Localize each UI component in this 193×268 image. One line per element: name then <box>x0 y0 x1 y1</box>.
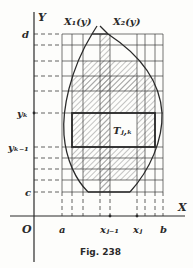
y-tick-c: c <box>25 187 31 198</box>
y-tick-yk: yₖ <box>16 108 28 119</box>
double-integral-diagram: Y X O X₁(y) X₂(y) d yₖ yₖ₋₁ c a xⱼ₋₁ xⱼ … <box>0 0 193 268</box>
y-axis-label: Y <box>38 11 47 24</box>
origin-label: O <box>22 223 32 236</box>
cell-label: Tⱼ,ₖ <box>113 125 132 137</box>
y-tick-yk-1: yₖ₋₁ <box>7 142 29 153</box>
x-tick-a: a <box>59 224 65 235</box>
x-tick-xj-1: xⱼ₋₁ <box>99 224 119 235</box>
y-guides <box>34 34 62 192</box>
x-tick-xj: xⱼ <box>132 224 143 235</box>
y-tick-d: d <box>22 29 29 40</box>
curve-x2-label: X₂(y) <box>112 16 141 27</box>
figure-caption: Fig. 238 <box>80 247 121 257</box>
curve-x2-top <box>100 26 108 34</box>
x-guides <box>62 192 163 216</box>
tick-xj-1 <box>109 215 112 218</box>
x-tick-b: b <box>160 224 167 235</box>
x-axis-label: X <box>177 201 187 214</box>
curve-x1-label: X₁(y) <box>63 16 92 27</box>
curve-x1-top <box>92 26 97 34</box>
tick-xj <box>136 215 139 218</box>
tick-yk <box>33 112 36 115</box>
